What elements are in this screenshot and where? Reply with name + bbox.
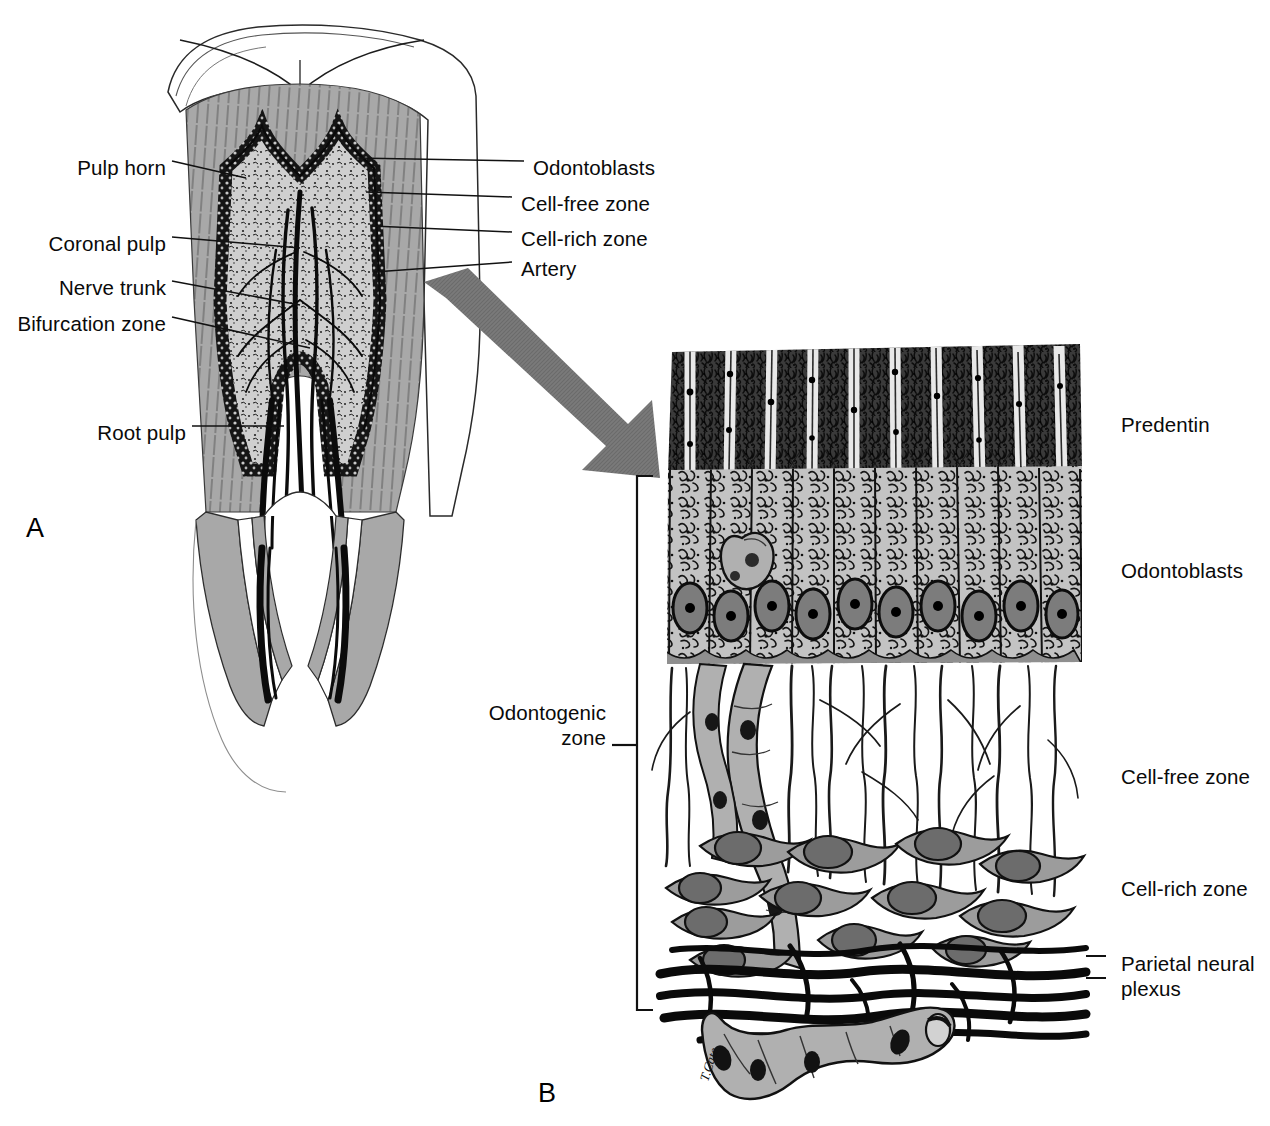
label-coronal-pulp: Coronal pulp [49,231,166,256]
label-odontogenic-zone-line2: zone [346,725,606,750]
capillary-in-odontoblast-layer [721,533,773,589]
zone-predentin [660,338,1090,480]
panel-b-illustration: T.Cate [612,338,1106,1099]
figure-root: T.Cate Pulp horn Coronal pulp Nerve trun… [0,0,1270,1126]
label-root-pulp: Root pulp [97,420,186,445]
label-cell-free-zone-panel-a: Cell-free zone [521,191,650,216]
label-odontoblasts-panel-b: Odontoblasts [1121,558,1243,583]
panel-letter-b: B [538,1078,556,1109]
label-cell-rich-zone-panel-b: Cell-rich zone [1121,876,1248,901]
label-pulp-horn: Pulp horn [77,155,166,180]
zone-cell-rich [666,828,1084,977]
panel-a-illustration [168,25,480,792]
label-cell-rich-zone-panel-a: Cell-rich zone [521,226,648,251]
label-cell-free-zone-panel-b: Cell-free zone [1121,764,1250,789]
label-parietal-neural-plexus-line1: Parietal neural [1121,951,1255,976]
label-odontogenic-zone-line1: Odontogenic [346,700,606,725]
label-predentin: Predentin [1121,412,1210,437]
zone-odontoblasts [660,462,1090,668]
label-parietal-neural-plexus-line2: plexus [1121,976,1181,1001]
label-bifurcation-zone: Bifurcation zone [17,311,166,336]
odontogenic-zone-bracket [612,476,653,1010]
label-artery-panel-a: Artery [521,256,576,281]
panel-letter-a: A [26,513,44,544]
label-odontoblasts-panel-a: Odontoblasts [533,155,655,180]
label-nerve-trunk: Nerve trunk [59,275,166,300]
